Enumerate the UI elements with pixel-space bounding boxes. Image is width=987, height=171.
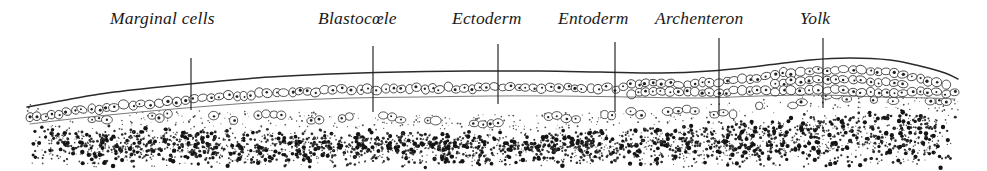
label-entoderm: Entoderm (558, 10, 629, 28)
label-marginal-cells: Marginal cells (110, 10, 215, 28)
label-archenteron: Archenteron (655, 10, 743, 28)
label-blastocoele: Blastocœle (318, 10, 397, 28)
label-yolk: Yolk (800, 10, 830, 28)
embryo-section-figure: Marginal cellsBlastocœleEctodermEntoderm… (0, 0, 987, 171)
label-ectoderm: Ectoderm (452, 10, 522, 28)
